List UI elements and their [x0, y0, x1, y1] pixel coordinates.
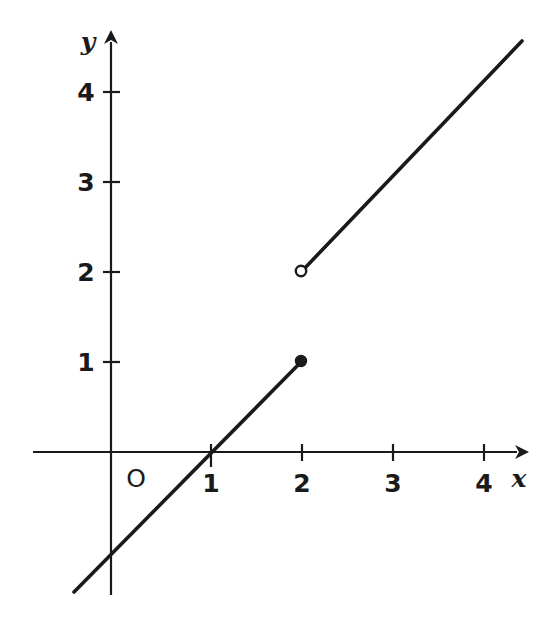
- x-axis-arrowhead: [515, 445, 529, 459]
- axes-group: [33, 30, 529, 595]
- labels-group: y x O 4 3 2 1 1 2 3 4: [77, 27, 527, 498]
- y-tick-label-4: 4: [77, 78, 94, 107]
- x-tick-label-2: 2: [293, 469, 310, 498]
- origin-label: O: [126, 464, 146, 493]
- branch-lower-line: [74, 362, 301, 592]
- coordinate-plane: y x O 4 3 2 1 1 2 3 4: [0, 0, 551, 620]
- branch-upper-line: [303, 41, 522, 270]
- x-axis-label: x: [511, 464, 528, 493]
- tick-marks-group: [103, 92, 484, 467]
- y-axis-arrowhead: [104, 30, 118, 44]
- x-tick-label-4: 4: [475, 469, 492, 498]
- graph-branches-group: [74, 41, 522, 592]
- y-tick-label-1: 1: [77, 348, 94, 377]
- y-tick-label-2: 2: [77, 258, 94, 287]
- open-circle-marker: [296, 266, 306, 276]
- graph-figure: y x O 4 3 2 1 1 2 3 4: [0, 0, 551, 620]
- x-tick-label-3: 3: [384, 469, 401, 498]
- endpoint-markers-group: [295, 266, 306, 367]
- closed-dot-marker: [295, 355, 306, 366]
- y-axis-label: y: [80, 27, 97, 56]
- y-tick-label-3: 3: [77, 168, 94, 197]
- x-tick-label-1: 1: [202, 469, 219, 498]
